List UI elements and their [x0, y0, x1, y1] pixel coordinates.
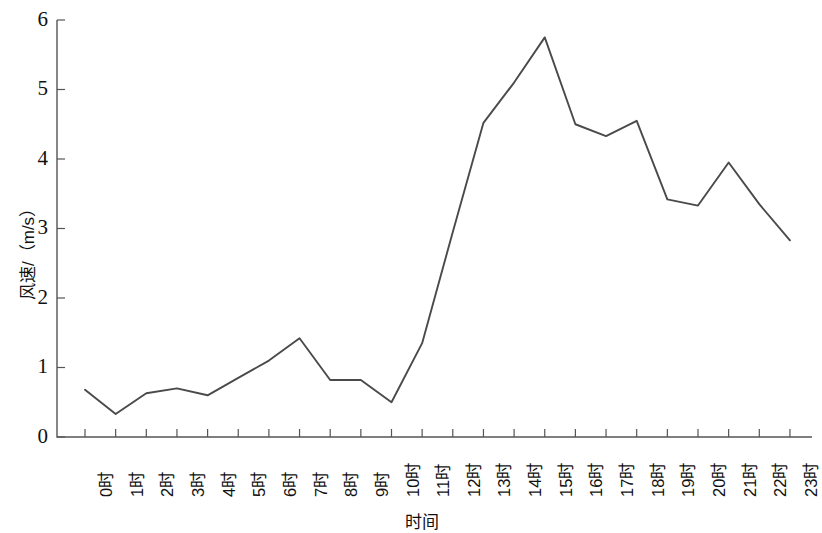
y-axis-tick-label: 0 — [38, 424, 49, 448]
wind-speed-series-line — [85, 37, 790, 414]
x-axis-tick-label: 20时 — [706, 462, 730, 497]
x-axis-tick-label: 15时 — [553, 462, 577, 497]
x-axis-tick-label: 4时 — [216, 471, 240, 497]
y-axis-tick-label: 3 — [38, 215, 49, 239]
x-axis-tick-label: 0时 — [93, 471, 117, 497]
y-axis-tick-label: 6 — [38, 7, 49, 31]
x-axis-ticks — [85, 429, 790, 437]
x-axis-tick-label: 2时 — [154, 471, 178, 497]
x-axis-title: 时间 — [405, 508, 439, 533]
x-axis-tick-label: 14时 — [522, 462, 546, 497]
y-axis-tick-label: 5 — [38, 76, 49, 100]
x-axis-tick-label: 18时 — [645, 462, 669, 497]
axes-group — [57, 20, 812, 437]
y-axis-tick-label: 4 — [38, 146, 49, 170]
x-axis-tick-label: 6时 — [277, 471, 301, 497]
x-axis-tick-label: 22时 — [767, 462, 791, 497]
x-axis-tick-label: 16时 — [583, 462, 607, 497]
x-axis-tick-label: 17时 — [614, 462, 638, 497]
x-axis-tick-label: 8时 — [338, 471, 362, 497]
x-axis-tick-label: 12时 — [461, 462, 485, 497]
y-axis-tick-label: 2 — [38, 285, 49, 309]
x-axis-tick-label: 10时 — [400, 462, 424, 497]
y-axis-tick-labels: 0123456 — [38, 7, 49, 448]
x-axis-tick-label: 19时 — [675, 462, 699, 497]
x-axis-tick-label: 23时 — [798, 462, 822, 497]
y-axis-tick-label: 1 — [38, 354, 49, 378]
x-axis-tick-label: 1时 — [124, 471, 148, 497]
x-axis-tick-label: 13时 — [491, 462, 515, 497]
axis-lines — [57, 20, 812, 437]
x-axis-tick-label: 7时 — [308, 471, 332, 497]
x-axis-tick-label: 21时 — [737, 462, 761, 497]
data-series-group — [85, 37, 790, 414]
x-axis-tick-label: 5时 — [246, 471, 270, 497]
x-axis-tick-label: 3时 — [185, 471, 209, 497]
x-axis-tick-label: 9时 — [369, 471, 393, 497]
y-axis-ticks — [57, 20, 65, 437]
y-axis-title: 风速/（m/s） — [14, 200, 39, 300]
x-axis-tick-label: 11时 — [430, 463, 454, 497]
